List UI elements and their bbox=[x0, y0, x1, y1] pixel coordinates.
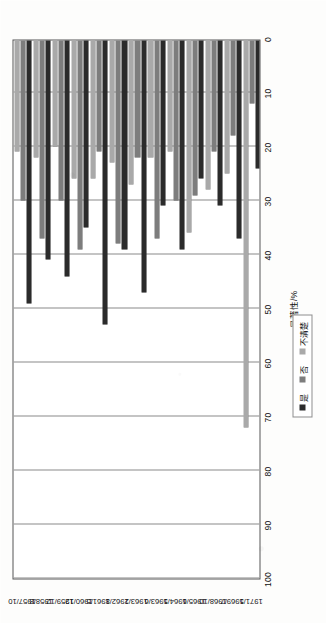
bar-group bbox=[127, 40, 146, 578]
value-tick-label: 100 bbox=[262, 572, 272, 587]
bar bbox=[33, 39, 38, 157]
bar bbox=[39, 39, 44, 238]
bar bbox=[179, 39, 184, 249]
category-axis: 1957/101958/81959/121960/121961/51962/81… bbox=[12, 579, 260, 623]
value-tick-label: 80 bbox=[262, 466, 272, 476]
bar bbox=[58, 39, 63, 200]
category-tick-label: 1963/2 bbox=[126, 579, 145, 623]
value-tick-label: 70 bbox=[262, 412, 272, 422]
bar bbox=[26, 39, 31, 303]
legend-swatch-icon bbox=[299, 376, 305, 382]
bar bbox=[45, 39, 50, 259]
bar bbox=[198, 39, 203, 178]
category-tick-label: 1969/7 bbox=[222, 579, 241, 623]
bar bbox=[102, 39, 107, 324]
bar-group bbox=[89, 40, 108, 578]
category-tick-label: 1971/5 bbox=[241, 579, 260, 623]
legend-item[interactable]: 是 bbox=[297, 393, 308, 410]
bar bbox=[255, 39, 260, 168]
bar bbox=[96, 39, 101, 151]
bar bbox=[217, 39, 222, 205]
bar bbox=[128, 39, 133, 184]
bar-group bbox=[70, 40, 89, 578]
bar bbox=[192, 39, 197, 195]
bar bbox=[14, 39, 19, 151]
bar-chart bbox=[12, 39, 260, 579]
bar bbox=[52, 39, 57, 146]
bar bbox=[71, 39, 76, 178]
bar-group bbox=[223, 40, 242, 578]
category-tick-label: 1964/5 bbox=[165, 579, 184, 623]
legend-swatch-icon bbox=[299, 348, 305, 354]
category-tick-label: 1960/12 bbox=[69, 579, 88, 623]
bar bbox=[115, 39, 120, 243]
plot-area bbox=[12, 39, 260, 579]
bar bbox=[173, 39, 178, 200]
bar bbox=[167, 39, 172, 151]
legend-swatch-icon bbox=[299, 404, 305, 410]
value-axis: 1009080706050403020100 bbox=[262, 39, 284, 579]
bar bbox=[77, 39, 82, 249]
bar-group bbox=[242, 40, 260, 578]
bar bbox=[211, 39, 216, 151]
category-tick-label: 1957/10 bbox=[12, 579, 31, 623]
bar-group bbox=[108, 40, 127, 578]
bar-group bbox=[166, 40, 185, 578]
value-tick-label: 10 bbox=[262, 88, 272, 98]
bar-group bbox=[13, 40, 32, 578]
bar bbox=[243, 39, 248, 427]
bar bbox=[64, 39, 69, 276]
bar bbox=[154, 39, 159, 238]
bar-group bbox=[147, 40, 166, 578]
legend-item[interactable]: 否 bbox=[297, 365, 308, 382]
bar-group bbox=[51, 40, 70, 578]
legend-label: 不清楚 bbox=[297, 321, 308, 345]
value-tick-label: 50 bbox=[262, 304, 272, 314]
bar bbox=[109, 39, 114, 162]
bar bbox=[230, 39, 235, 135]
rotated-scan-page: 1957/101958/81959/121960/121961/51962/81… bbox=[0, 0, 326, 623]
axis-title: 显著性/% bbox=[286, 39, 298, 579]
category-tick-label: 1963/6 bbox=[146, 579, 165, 623]
bar bbox=[83, 39, 88, 227]
bar-group bbox=[32, 40, 51, 578]
value-tick-label: 60 bbox=[262, 358, 272, 368]
bar-group bbox=[204, 40, 223, 578]
value-tick-label: 90 bbox=[262, 520, 272, 530]
bar bbox=[90, 39, 95, 178]
bar bbox=[147, 39, 152, 157]
bar bbox=[121, 39, 126, 249]
bar-group bbox=[185, 40, 204, 578]
value-tick-label: 0 bbox=[262, 37, 272, 42]
legend-item[interactable]: 不清楚 bbox=[297, 321, 308, 354]
bar bbox=[20, 39, 25, 200]
bar bbox=[134, 39, 139, 157]
category-tick-label: 1968/10 bbox=[203, 579, 222, 623]
bar bbox=[205, 39, 210, 189]
value-tick-label: 40 bbox=[262, 250, 272, 260]
bar bbox=[141, 39, 146, 292]
value-tick-label: 30 bbox=[262, 196, 272, 206]
bar bbox=[160, 39, 165, 205]
bar bbox=[236, 39, 241, 238]
value-tick-label: 20 bbox=[262, 142, 272, 152]
bar bbox=[249, 39, 254, 103]
chart-legend: 是否不清楚 bbox=[292, 314, 312, 417]
bar bbox=[186, 39, 191, 232]
bar bbox=[224, 39, 229, 173]
legend-label: 否 bbox=[297, 365, 308, 373]
legend-label: 是 bbox=[297, 393, 308, 401]
